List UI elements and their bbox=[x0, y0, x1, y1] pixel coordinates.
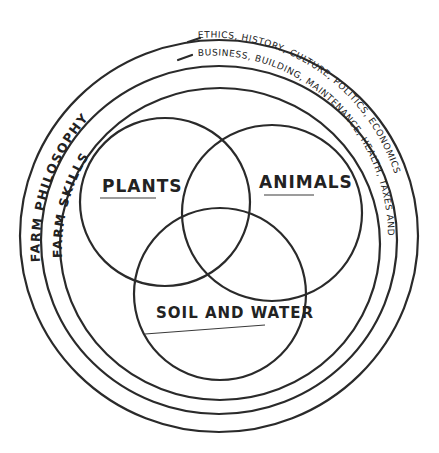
soil-water-label: SOIL AND WATER bbox=[156, 304, 314, 322]
soil-water-underline bbox=[145, 325, 265, 334]
farm-venn-diagram: FARM PHILOSOPHY FARM SKILLS ETHICS, HIST… bbox=[0, 0, 439, 453]
skills-dash bbox=[178, 55, 192, 60]
plants-circle bbox=[80, 118, 250, 286]
plants-label: PLANTS bbox=[102, 176, 183, 196]
soil-water-circle bbox=[134, 208, 306, 380]
inner-ring bbox=[60, 88, 380, 400]
animals-circle bbox=[182, 125, 362, 301]
animals-label: ANIMALS bbox=[259, 172, 353, 192]
